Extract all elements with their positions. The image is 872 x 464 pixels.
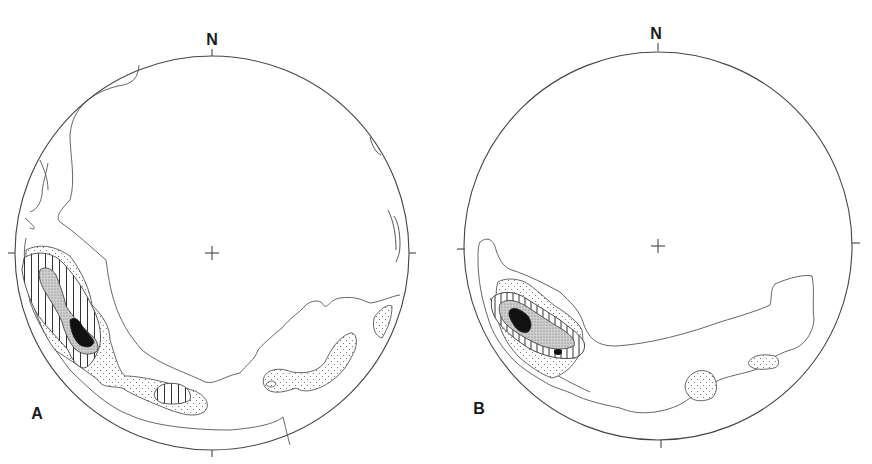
north-label-a: N	[206, 31, 218, 48]
north-label-b: N	[650, 25, 662, 42]
center-cross-a	[205, 246, 219, 260]
panel-label-a: A	[31, 405, 43, 422]
stereonet-b: N B	[457, 25, 860, 448]
center-cross-b	[651, 239, 665, 253]
stereonet-a: N A	[8, 31, 416, 457]
stereonet-figure: N A N B	[0, 0, 872, 464]
panel-label-b: B	[473, 400, 485, 417]
